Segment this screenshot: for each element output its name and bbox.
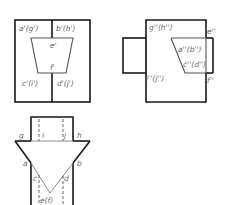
label-h3: h	[77, 131, 82, 140]
side-view: g''(h'') e'' a''(b'') c''(d'') i''(j'') …	[123, 20, 216, 102]
label-d-j: d'(j')	[57, 79, 74, 88]
top-view: g i j h a b c d e(f)	[15, 117, 90, 205]
label-g3: g	[19, 131, 24, 140]
label-e: e'	[50, 41, 57, 50]
label-d3: d	[64, 174, 69, 183]
front-view: a'(g') b'(h') e' f' c'(i') d'(j')	[15, 20, 90, 102]
label-c-d: c''(d'')	[183, 60, 206, 69]
label-b-h: b'(h')	[56, 24, 76, 33]
label-j3: j	[63, 131, 67, 140]
side-view-left-block	[123, 38, 146, 73]
label-f2: f''	[207, 76, 214, 85]
label-g-h: g''(h'')	[149, 23, 173, 32]
label-a-g: a'(g')	[19, 24, 38, 33]
label-i3: i	[42, 131, 45, 140]
top-view-upper-block	[31, 117, 73, 141]
orthographic-projection-diagram: a'(g') b'(h') e' f' c'(i') d'(j') g''(h'…	[0, 0, 235, 205]
label-i-j: i''(j'')	[146, 74, 164, 83]
label-b3: b	[77, 159, 82, 168]
label-a-b: a''(b'')	[178, 45, 202, 54]
label-c3: c	[33, 174, 38, 183]
label-e-f3: e(f)	[40, 196, 53, 205]
label-c-i: c'(i')	[22, 79, 38, 88]
label-a3: a	[23, 159, 28, 168]
label-f: f'	[50, 63, 55, 72]
label-e2: e''	[207, 27, 216, 36]
